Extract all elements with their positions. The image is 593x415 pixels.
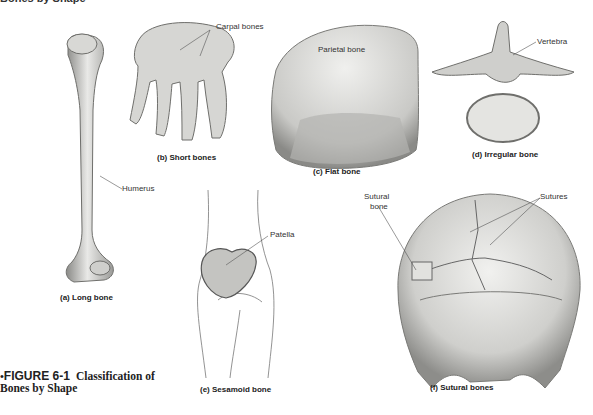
figure-illustrations (0, 0, 593, 415)
header-partial: Bones by Shape (0, 0, 86, 4)
caption-sesamoid-bone: (e) Sesamoid bone (200, 385, 271, 394)
caption-short-bones: (b) Short bones (157, 153, 216, 162)
caption-flat-bone: (c) Flat bone (313, 167, 361, 176)
hand-illustration (130, 23, 234, 140)
skull-illustration (378, 194, 580, 388)
label-sutural: Sutural (364, 192, 389, 201)
caption-sutural-bones: (f) Sutural bones (430, 383, 494, 392)
label-patella: Patella (270, 230, 294, 239)
figure-title-line1: Classification of (76, 370, 155, 382)
figure-caption: •FIGURE 6-1 Classification of Bones by S… (0, 370, 155, 394)
label-humerus: Humerus (122, 184, 154, 193)
label-bone: bone (370, 202, 388, 211)
figure-number: FIGURE 6-1 (4, 369, 70, 383)
label-vertebra: Vertebra (537, 37, 567, 46)
patella-shape (201, 249, 256, 298)
label-carpal-bones: Carpal bones (216, 22, 264, 31)
figure-title-line2: Bones by Shape (0, 382, 155, 394)
label-sutures: Sutures (540, 192, 568, 201)
caption-irregular-bone: (d) Irregular bone (472, 150, 538, 159)
label-parietal-bone: Parietal bone (318, 45, 365, 54)
humerus-illustration (66, 34, 122, 282)
caption-long-bone: (a) Long bone (60, 293, 113, 302)
